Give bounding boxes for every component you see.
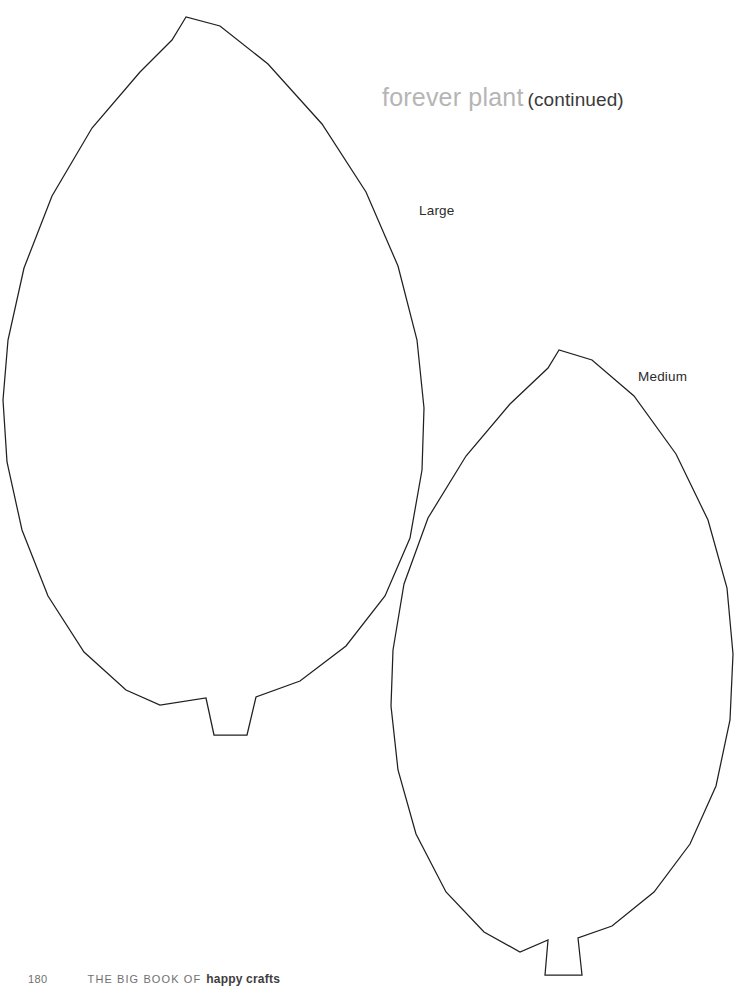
page-title-continued: (continued) [528, 89, 624, 110]
size-label-medium: Medium [638, 369, 687, 384]
page-title: forever plant(continued) [382, 85, 624, 110]
page-title-main: forever plant [382, 83, 524, 111]
leaf-large-outline [3, 17, 424, 735]
book-title: happy crafts [206, 972, 280, 986]
size-label-large: Large [419, 203, 455, 218]
book-series-prefix: THE BIG BOOK OF [88, 973, 202, 985]
page-number: 180 [28, 973, 48, 985]
craft-template-page: forever plant(continued) Large Medium 18… [0, 0, 753, 986]
page-footer: 180 THE BIG BOOK OF happy crafts [28, 972, 280, 986]
leaf-template-artwork [0, 0, 753, 986]
leaf-medium-outline [391, 350, 733, 975]
